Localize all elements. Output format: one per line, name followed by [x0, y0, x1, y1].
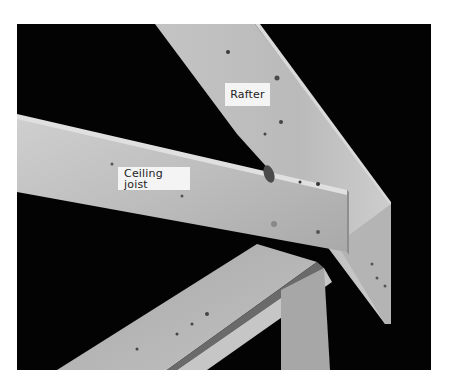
rafter-label: Rafter — [225, 83, 270, 106]
framing-photo — [17, 24, 431, 370]
framing-illustration — [17, 24, 431, 370]
top-plate-board — [57, 244, 332, 370]
ceiling-joist-label: Ceiling joist — [118, 167, 190, 190]
